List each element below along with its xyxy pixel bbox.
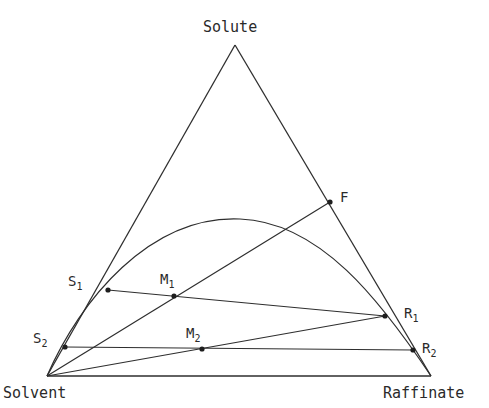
line-solvent-to-F: [47, 202, 330, 376]
tie-line-S2-R2: [65, 347, 413, 350]
point-r2-marker: [410, 347, 415, 352]
tie-line-S1-R1: [108, 290, 385, 316]
point-label-m2: M2: [186, 325, 200, 344]
point-label-r1: R1: [404, 305, 418, 324]
vertex-label-raffinate: Raffinate: [383, 384, 464, 402]
points-layer: FS1S2M1M2R1R2: [33, 189, 436, 359]
point-label-s2: S2: [33, 330, 47, 349]
edge-solute-solvent: [47, 45, 235, 376]
point-label-f: F: [340, 189, 348, 205]
edge-solute-raffinate: [235, 45, 431, 376]
binodal-curve: [47, 219, 431, 376]
ternary-diagram: FS1S2M1M2R1R2 Solute Solvent Raffinate: [0, 0, 489, 408]
point-m1-marker: [171, 293, 176, 298]
line-solvent-to-R1: [47, 316, 385, 376]
vertex-label-solvent: Solvent: [3, 384, 66, 402]
point-s2-marker: [62, 344, 67, 349]
point-f-marker: [327, 199, 332, 204]
point-s1-marker: [105, 287, 110, 292]
point-label-r2: R2: [422, 340, 436, 359]
point-r1-marker: [382, 313, 387, 318]
point-label-s1: S1: [68, 273, 82, 292]
vertex-label-solute: Solute: [203, 18, 257, 36]
point-m2-marker: [199, 346, 204, 351]
point-label-m1: M1: [160, 271, 174, 290]
